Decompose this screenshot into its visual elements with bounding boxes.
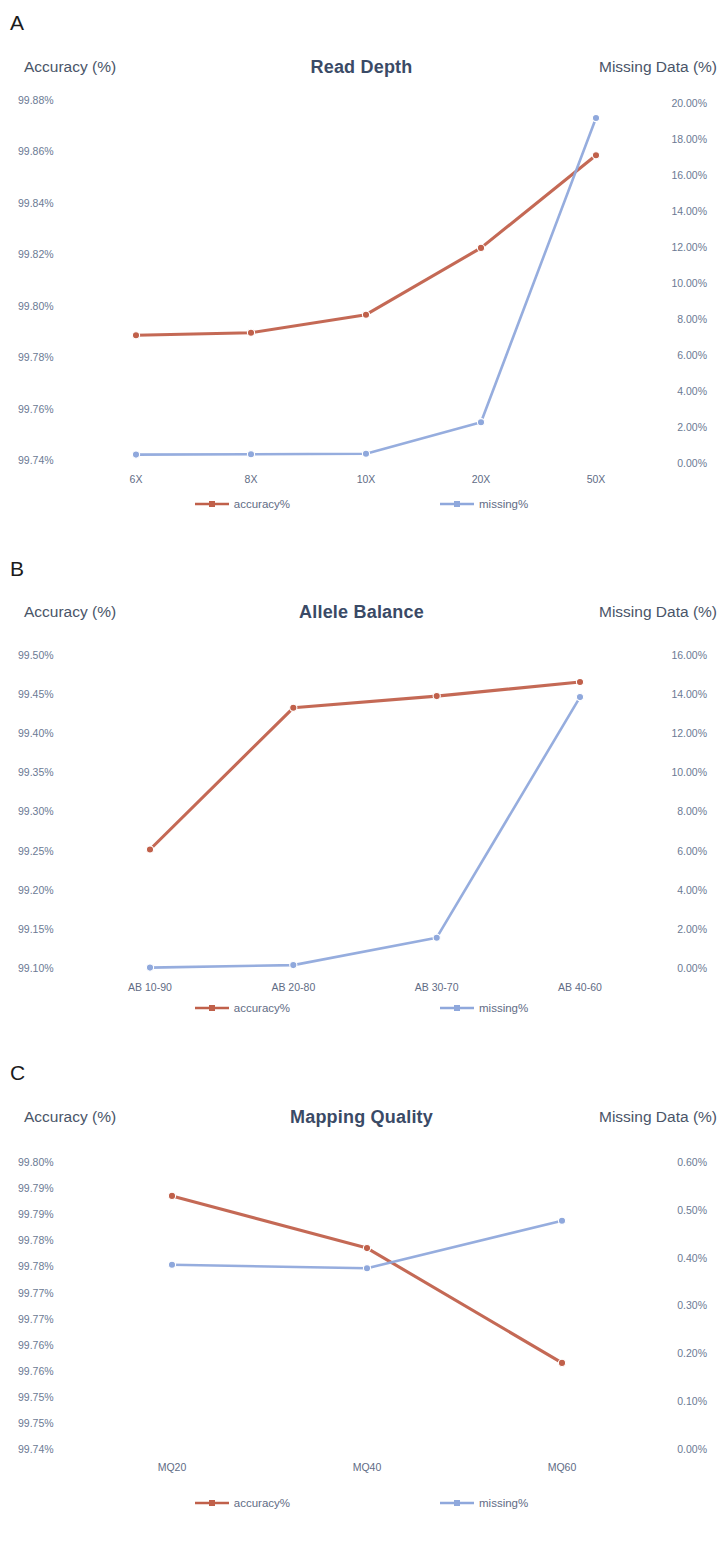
right-axis-tick: 20.00%: [671, 98, 707, 109]
series-line-accuracy: [150, 682, 580, 850]
right-axis-tick: 8.00%: [677, 806, 707, 817]
right-axis-tick: 0.60%: [677, 1157, 707, 1168]
right-axis-tick: 4.00%: [677, 386, 707, 397]
right-axis-tick: 0.20%: [677, 1348, 707, 1359]
data-point-marker: [576, 694, 583, 701]
right-axis-tick: 12.00%: [671, 242, 707, 253]
legend-a: accuracy%missing%: [0, 498, 723, 510]
series-line-missing: [150, 697, 580, 968]
panel-allele-balance: B Accuracy (%) Missing Data (%) Allele B…: [0, 545, 723, 1050]
right-axis-tick: 4.00%: [677, 885, 707, 896]
left-axis-tick: 99.79%: [18, 1183, 54, 1194]
left-axis-tick: 99.79%: [18, 1209, 54, 1220]
left-axis-tick: 99.75%: [18, 1418, 54, 1429]
data-point-marker: [132, 332, 139, 339]
left-axis-tick: 99.76%: [18, 1340, 54, 1351]
right-axis-tick: 12.00%: [671, 728, 707, 739]
right-axis-tick: 10.00%: [671, 767, 707, 778]
legend-c: accuracy%missing%: [0, 1497, 723, 1509]
right-axis-tick: 0.00%: [677, 963, 707, 974]
x-axis-tick: MQ40: [353, 1462, 382, 1473]
data-point-marker: [247, 451, 254, 458]
data-point-marker: [558, 1217, 565, 1224]
left-axis-tick: 99.78%: [18, 352, 54, 363]
panel-read-depth: A Accuracy (%) Missing Data (%) Read Dep…: [0, 0, 723, 545]
left-axis-tick: 99.84%: [18, 198, 54, 209]
legend-key-icon: [440, 1003, 474, 1013]
left-axis-tick: 99.15%: [18, 924, 54, 935]
data-point-marker: [362, 311, 369, 318]
data-point-marker: [168, 1261, 175, 1268]
legend-label: missing%: [479, 498, 528, 510]
left-axis-tick: 99.45%: [18, 689, 54, 700]
left-axis-tick: 99.74%: [18, 1444, 54, 1455]
legend-key-icon: [195, 499, 229, 509]
right-axis-tick: 0.10%: [677, 1396, 707, 1407]
left-axis-tick: 99.77%: [18, 1314, 54, 1325]
panel-mapping-quality: C Accuracy (%) Missing Data (%) Mapping …: [0, 1050, 723, 1544]
data-point-marker: [558, 1359, 565, 1366]
legend-label: missing%: [479, 1002, 528, 1014]
left-axis-tick: 99.76%: [18, 1366, 54, 1377]
data-point-marker: [290, 704, 297, 711]
legend-key-icon: [440, 499, 474, 509]
legend-label: accuracy%: [234, 1002, 290, 1014]
data-point-marker: [146, 964, 153, 971]
left-axis-tick: 99.80%: [18, 1157, 54, 1168]
right-axis-tick: 14.00%: [671, 206, 707, 217]
right-axis-tick: 16.00%: [671, 170, 707, 181]
left-axis-tick: 99.74%: [18, 455, 54, 466]
left-axis-tick: 99.78%: [18, 1235, 54, 1246]
series-line-accuracy: [172, 1196, 562, 1363]
legend-key-icon: [440, 1498, 474, 1508]
right-axis-tick: 14.00%: [671, 689, 707, 700]
right-axis-tick: 0.00%: [677, 1444, 707, 1455]
legend-item[interactable]: accuracy%: [195, 1002, 290, 1014]
left-axis-tick: 99.77%: [18, 1288, 54, 1299]
legend-key-icon: [195, 1498, 229, 1508]
data-point-marker: [433, 693, 440, 700]
legend-key-icon: [195, 1003, 229, 1013]
right-axis-tick: 2.00%: [677, 422, 707, 433]
left-axis-tick: 99.86%: [18, 146, 54, 157]
right-axis-tick: 0.40%: [677, 1253, 707, 1264]
right-axis-tick: 0.30%: [677, 1300, 707, 1311]
left-axis-tick: 99.80%: [18, 301, 54, 312]
left-axis-tick: 99.40%: [18, 728, 54, 739]
data-point-marker: [132, 451, 139, 458]
legend-item[interactable]: accuracy%: [195, 498, 290, 510]
legend-item[interactable]: missing%: [440, 498, 528, 510]
left-axis-tick: 99.50%: [18, 650, 54, 661]
plot-area-a: [0, 0, 723, 545]
legend-label: accuracy%: [234, 498, 290, 510]
legend-b: accuracy%missing%: [0, 1002, 723, 1014]
left-axis-tick: 99.10%: [18, 963, 54, 974]
x-axis-tick: 10X: [357, 474, 376, 485]
left-axis-tick: 99.88%: [18, 95, 54, 106]
right-axis-tick: 6.00%: [677, 350, 707, 361]
x-axis-tick: AB 20-80: [271, 982, 315, 993]
left-axis-tick: 99.25%: [18, 846, 54, 857]
data-point-marker: [592, 152, 599, 159]
left-axis-tick: 99.75%: [18, 1392, 54, 1403]
data-point-marker: [576, 678, 583, 685]
legend-label: accuracy%: [234, 1497, 290, 1509]
data-point-marker: [363, 1245, 370, 1252]
x-axis-tick: MQ60: [548, 1462, 577, 1473]
legend-item[interactable]: accuracy%: [195, 1497, 290, 1509]
legend-item[interactable]: missing%: [440, 1002, 528, 1014]
series-line-missing: [136, 118, 596, 455]
plot-area-b: [0, 545, 723, 1050]
x-axis-tick: 8X: [245, 474, 258, 485]
right-axis-tick: 10.00%: [671, 278, 707, 289]
right-axis-tick: 16.00%: [671, 650, 707, 661]
left-axis-tick: 99.78%: [18, 1261, 54, 1272]
right-axis-tick: 18.00%: [671, 134, 707, 145]
right-axis-tick: 0.50%: [677, 1205, 707, 1216]
x-axis-tick: 20X: [472, 474, 491, 485]
x-axis-tick: AB 40-60: [558, 982, 602, 993]
right-axis-tick: 6.00%: [677, 846, 707, 857]
left-axis-tick: 99.30%: [18, 806, 54, 817]
legend-item[interactable]: missing%: [440, 1497, 528, 1509]
right-axis-tick: 8.00%: [677, 314, 707, 325]
